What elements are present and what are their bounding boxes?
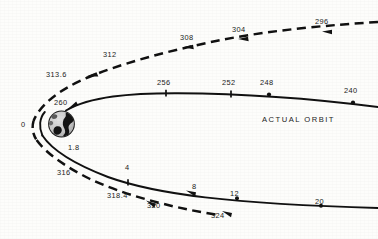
dashed-orbit-upper-path [34,22,378,121]
label-4: 4 [125,164,130,171]
actual-tick-248 [267,93,271,97]
dashed-tick-308-arrow [86,72,98,76]
actual-orbit-lower-path [42,136,378,209]
label-1-8: 1.8 [68,144,80,151]
actual-orbit-path-group [40,90,378,208]
actual-tick-240 [351,101,355,105]
label-12: 12 [230,190,239,197]
label-308: 308 [180,34,194,41]
label-296: 296 [315,18,329,25]
label-318-4: 318.4 [107,192,128,199]
label-20: 20 [315,198,324,205]
actual-orbit-apex-path [40,112,45,136]
label-8: 8 [192,183,197,190]
label-252: 252 [222,79,236,86]
dashed-orbit-apex-path [33,121,37,140]
label-313-6: 313.6 [46,71,67,78]
orbit-diagram-figure: 313.6 312 308 304 296 260 256 252 248 24… [0,0,378,239]
label-312: 312 [103,51,117,58]
label-0: 0 [21,121,26,128]
dashed-tick-296-arrow [322,30,332,34]
label-324: 324 [211,212,225,219]
label-304: 304 [232,26,246,33]
label-320: 320 [147,202,161,209]
label-260: 260 [54,99,68,106]
label-256: 256 [157,79,171,86]
earth-globe [48,110,76,138]
actual-orbit-annotation: ACTUAL ORBIT [262,116,335,124]
label-240: 240 [344,87,358,94]
dashed-orbit-lower-path [37,140,218,215]
actual-orbit-upper-path [66,93,378,110]
label-248: 248 [260,79,274,86]
label-316: 316 [57,169,71,176]
